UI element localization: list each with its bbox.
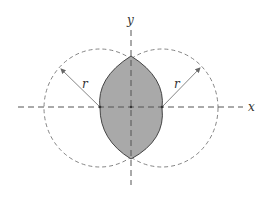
y-axis-label: y: [126, 13, 134, 27]
left-center-point: [99, 106, 102, 109]
x-axis-label: x: [248, 100, 255, 114]
diagram-canvas: r r y x: [0, 0, 268, 198]
origin-point: [130, 106, 132, 108]
left-radius-arrow: [61, 69, 100, 107]
right-center-point: [161, 106, 164, 109]
left-radius-label: r: [82, 77, 89, 91]
right-radius-arrow: [162, 68, 200, 107]
